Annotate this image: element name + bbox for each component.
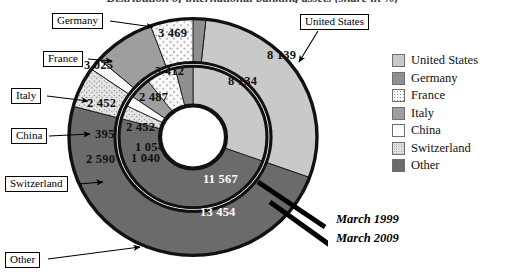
legend: United States Germany France Italy China… [392, 52, 504, 175]
callout-germany: Germany [52, 13, 103, 29]
legend-swatch-italy [392, 107, 405, 120]
value-france-outer: 3 025 [84, 58, 113, 73]
legend-item-germany[interactable]: Germany [392, 70, 504, 88]
legend-swatch-united-states [392, 54, 405, 67]
value-italy-outer: 2 452 [87, 96, 116, 111]
legend-label-united-states: United States [411, 53, 478, 68]
legend-item-other[interactable]: Other [392, 157, 504, 175]
annotation-march-1999: March 1999 [336, 212, 399, 227]
value-china-outer: 395 [95, 127, 114, 142]
callout-italy: Italy [11, 88, 41, 104]
legend-swatch-germany [392, 72, 405, 85]
callout-france: France [43, 51, 83, 67]
legend-label-france: France [411, 88, 445, 103]
legend-swatch-switzerland [392, 142, 405, 155]
value-italy-inner: 2 452 [126, 120, 155, 135]
chart-canvas: Distribution of international banking as… [0, 0, 505, 278]
callout-united-states: United States [300, 14, 369, 30]
legend-item-switzerland[interactable]: Switzerland [392, 140, 504, 158]
value-other-inner: 11 567 [203, 172, 238, 187]
callout-switzerland: Switzerland [5, 176, 68, 192]
legend-label-italy: Italy [411, 106, 434, 121]
legend-label-china: China [411, 123, 441, 138]
callout-china: China [11, 128, 47, 144]
value-other-outer: 13 454 [200, 205, 236, 220]
annotation-march-2009: March 2009 [336, 231, 399, 246]
value-united-states-inner: 8 134 [228, 74, 257, 89]
value-france-inner: 2 487 [139, 90, 168, 105]
donut-center-hole [160, 105, 226, 168]
value-united-states-outer: 8 139 [267, 48, 296, 63]
legend-label-germany: Germany [411, 71, 458, 86]
value-germany-outer: 3 469 [158, 26, 187, 41]
legend-item-united-states[interactable]: United States [392, 52, 504, 70]
legend-swatch-china [392, 124, 405, 137]
value-germany-inner: 3 412 [155, 64, 184, 79]
legend-swatch-france [392, 89, 405, 102]
legend-swatch-other [392, 159, 405, 172]
value-switzerland-outer: 2 590 [86, 152, 115, 167]
chart-title: Distribution of international banking as… [0, 0, 505, 3]
value-switzerland-inner: 1 040 [131, 151, 160, 166]
legend-label-other: Other [411, 158, 439, 173]
callout-other: Other [5, 252, 40, 268]
legend-label-switzerland: Switzerland [411, 141, 471, 156]
legend-item-china[interactable]: China [392, 122, 504, 140]
legend-item-italy[interactable]: Italy [392, 105, 504, 123]
legend-item-france[interactable]: France [392, 87, 504, 105]
